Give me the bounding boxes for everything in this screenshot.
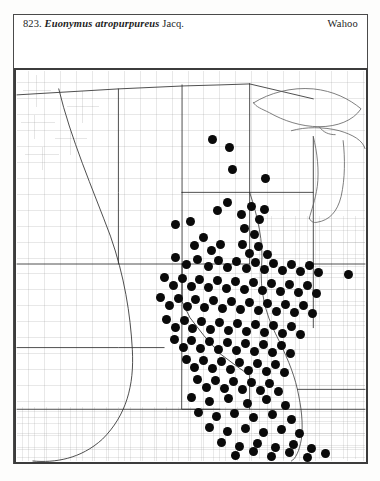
great-lakes-shoreline [254,89,365,223]
county-lines [17,71,365,461]
plate-caption: 823. Euonymus atropurpureus Jacq. Wahoo [13,14,368,38]
scientific-name: Euonymus atropurpureus [45,18,160,29]
plate-number: 823. [23,18,42,29]
atlas-page: 823. Euonymus atropurpureus Jacq. Wahoo [0,0,380,481]
name-authority: Jacq. [162,18,184,29]
common-name: Wahoo [328,18,358,29]
map-base-layer [15,69,367,463]
caption-left: 823. Euonymus atropurpureus Jacq. [23,18,184,29]
distribution-map [14,68,368,464]
state-boundaries [17,84,365,462]
